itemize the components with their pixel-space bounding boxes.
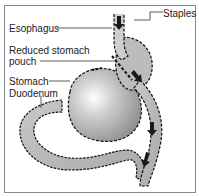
label-duodenum: Duodenum (9, 88, 58, 99)
label-reduced-pouch-1: Reduced stomach (9, 45, 90, 56)
label-staples: Staples (163, 8, 196, 19)
label-stomach: Stomach (9, 76, 48, 87)
label-reduced-pouch-2: pouch (9, 56, 36, 67)
label-esophagus: Esophagus (9, 23, 59, 34)
